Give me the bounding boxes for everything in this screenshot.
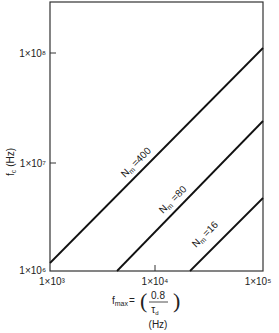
y-axis-label: fc(Hz) [5,148,17,176]
svg-text:(: ( [140,288,147,313]
line-nm-80 [117,121,263,271]
svg-text:0.8: 0.8 [151,290,165,301]
svg-text:): ) [173,288,180,313]
y-tick-label-1e7: 1×10⁷ [20,158,47,169]
x-tick-label-1e5: 1×10⁵ [245,276,272,287]
line-nm-16 [190,198,263,271]
y-tick-label-1e6: 1×10⁶ [19,265,46,276]
x-tick-label-1e4: 1×10⁴ [142,276,169,287]
chart: 1×10⁸ 1×10⁷ 1×10⁶ 1×10³ 1×10⁴ 1×10⁵ fc(H… [0,0,279,333]
svg-text:fmax=: fmax= [112,295,135,307]
svg-text:Nm=80: Nm=80 [157,183,190,216]
svg-text:fc(Hz): fc(Hz) [5,148,17,176]
x-tick-label-1e3: 1×10³ [39,276,66,287]
label-nm-80: Nm=80 [157,183,190,216]
y-tick-label-1e8: 1×10⁸ [19,48,46,59]
svg-text:(Hz): (Hz) [149,319,168,330]
svg-text:τd: τd [151,304,158,316]
x-axis-label: fmax= ( ) 0.8 τd (Hz) [112,288,180,330]
